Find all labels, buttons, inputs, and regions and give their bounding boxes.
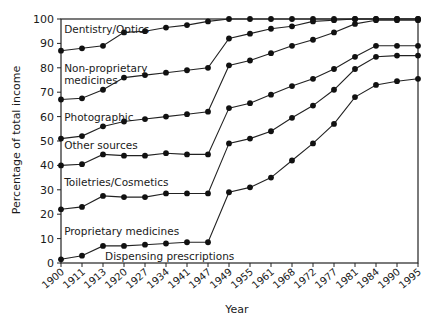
x-tick-label: 1995	[397, 266, 424, 291]
data-point	[79, 253, 85, 259]
data-point	[100, 123, 106, 129]
series-annotation: Other sources	[64, 139, 137, 151]
data-point	[142, 153, 148, 159]
data-point	[268, 26, 274, 32]
series-annotation: Non-proprietary	[64, 62, 147, 74]
data-point	[352, 54, 358, 60]
data-point	[373, 16, 379, 22]
data-point	[58, 136, 64, 142]
data-point	[205, 191, 211, 197]
data-point	[142, 242, 148, 248]
data-point	[310, 103, 316, 109]
x-tick-label: 1961	[250, 266, 277, 291]
x-tick-label: 1977	[313, 266, 340, 291]
x-tick-label: 1984	[355, 266, 382, 291]
y-tick-label: 70	[40, 86, 54, 99]
data-point	[142, 194, 148, 200]
x-tick-label: 1913	[82, 266, 109, 291]
data-point	[205, 239, 211, 245]
stacked-income-line-chart: 0102030405060708090100190019111913192019…	[0, 0, 435, 328]
x-tick-label: 1990	[376, 266, 403, 291]
data-point	[58, 48, 64, 54]
y-axis-label: Percentage of total income	[10, 66, 23, 215]
data-point	[373, 54, 379, 60]
data-point	[163, 191, 169, 197]
data-point	[58, 163, 64, 169]
series-annotation: medicines	[64, 74, 118, 86]
data-point	[205, 109, 211, 115]
y-tick-label: 20	[40, 208, 54, 221]
y-tick-label: 90	[40, 37, 54, 50]
data-point	[163, 25, 169, 31]
data-point	[163, 150, 169, 156]
y-tick-label: 30	[40, 184, 54, 197]
data-point	[310, 76, 316, 82]
data-point	[247, 16, 253, 22]
data-point	[247, 100, 253, 106]
data-point	[226, 62, 232, 68]
data-point	[121, 243, 127, 249]
data-point	[100, 243, 106, 249]
data-point	[142, 116, 148, 122]
data-point	[100, 87, 106, 93]
data-point	[331, 121, 337, 127]
data-point	[226, 189, 232, 195]
y-tick-label: 60	[40, 111, 54, 124]
x-tick-label: 1949	[208, 266, 235, 291]
data-point	[226, 36, 232, 42]
x-axis-label: Year	[224, 303, 249, 316]
series-annotation: Toiletries/Cosmetics	[63, 176, 168, 188]
data-point	[331, 16, 337, 22]
data-point	[394, 53, 400, 59]
data-point	[79, 161, 85, 167]
data-point	[415, 53, 421, 59]
data-point	[310, 141, 316, 147]
x-tick-label: 1972	[292, 266, 319, 291]
data-point	[226, 16, 232, 22]
data-point	[394, 78, 400, 84]
data-point	[268, 50, 274, 56]
data-point	[121, 194, 127, 200]
data-point	[100, 152, 106, 158]
y-tick-label: 10	[40, 233, 54, 246]
data-point	[268, 175, 274, 181]
data-point	[289, 115, 295, 121]
y-tick-label: 40	[40, 159, 54, 172]
x-tick-label: 1920	[103, 266, 130, 291]
data-point	[331, 66, 337, 72]
series-annotation: Dentistry/Optics	[64, 23, 149, 35]
data-point	[373, 82, 379, 88]
data-point	[163, 70, 169, 76]
data-point	[415, 16, 421, 22]
x-tick-label: 1927	[124, 266, 151, 291]
data-point	[394, 16, 400, 22]
data-point	[247, 184, 253, 190]
data-point	[163, 114, 169, 120]
data-point	[184, 111, 190, 117]
data-point	[247, 136, 253, 142]
data-point	[289, 83, 295, 89]
data-point	[352, 16, 358, 22]
data-point	[310, 16, 316, 22]
data-point	[79, 95, 85, 101]
data-point	[58, 256, 64, 262]
data-point	[100, 43, 106, 49]
x-tick-label: 1955	[229, 266, 256, 291]
data-point	[121, 75, 127, 81]
x-tick-label: 1934	[145, 266, 172, 291]
data-point	[352, 66, 358, 72]
data-point	[247, 31, 253, 37]
data-point	[184, 239, 190, 245]
data-point	[184, 191, 190, 197]
data-point	[58, 97, 64, 103]
x-tick-label: 1941	[166, 266, 193, 291]
data-point	[268, 128, 274, 134]
x-tick-label: 1981	[334, 266, 361, 291]
data-point	[184, 67, 190, 73]
data-point	[352, 94, 358, 100]
data-point	[226, 105, 232, 111]
data-point	[58, 206, 64, 212]
y-tick-label: 50	[40, 135, 54, 148]
data-point	[205, 152, 211, 158]
data-point	[289, 43, 295, 49]
